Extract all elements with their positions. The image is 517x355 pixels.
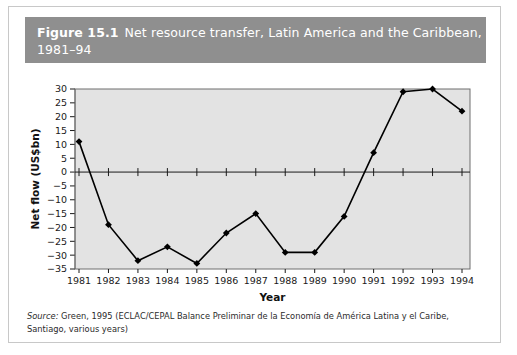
- line-chart: 302520151050−5−10−15−20−25−30−35 1981198…: [25, 73, 486, 301]
- y-tick-label: −35: [47, 263, 67, 274]
- figure-title-text: Net resource transfer, Latin America and…: [125, 25, 482, 40]
- x-tick-label: 1986: [214, 275, 238, 286]
- x-tick-label: 1984: [155, 275, 179, 286]
- x-tick-label: 1990: [332, 275, 356, 286]
- source-note: Source: Green, 1995 (ECLAC/CEPAL Balance…: [27, 310, 487, 335]
- x-tick-label: 1993: [420, 275, 444, 286]
- source-label: Source:: [27, 311, 58, 321]
- figure-container: Figure 15.1Net resource transfer, Latin …: [8, 6, 501, 343]
- y-tick-label: −15: [47, 208, 67, 219]
- y-tick-label: −10: [47, 194, 67, 205]
- plot-background: [75, 89, 470, 269]
- y-tick-label: 5: [61, 153, 67, 164]
- y-tick-label: 15: [55, 125, 67, 136]
- figure-title-line-1: Figure 15.1Net resource transfer, Latin …: [37, 24, 474, 41]
- y-tick-label: −20: [47, 222, 67, 233]
- y-tick-label: 25: [55, 97, 67, 108]
- y-tick-label: 30: [55, 83, 67, 94]
- y-tick-label: −5: [53, 180, 67, 191]
- x-tick-label: 1985: [185, 275, 209, 286]
- figure-title-bar: Figure 15.1Net resource transfer, Latin …: [25, 17, 486, 63]
- y-tick-label: −30: [47, 250, 67, 261]
- y-axis-ticks: [70, 89, 75, 269]
- x-tick-label: 1989: [303, 275, 327, 286]
- x-tick-label: 1991: [362, 275, 386, 286]
- x-tick-label: 1994: [450, 275, 474, 286]
- source-text: Green, 1995 (ECLAC/CEPAL Balance Prelimi…: [27, 311, 449, 334]
- chart-plot-area: 302520151050−5−10−15−20−25−30−35 1981198…: [25, 73, 486, 301]
- y-axis-labels: 302520151050−5−10−15−20−25−30−35: [47, 83, 67, 274]
- x-tick-label: 1992: [391, 275, 415, 286]
- x-tick-label: 1982: [96, 275, 120, 286]
- x-axis-title: Year: [258, 291, 286, 301]
- y-tick-label: 10: [55, 139, 67, 150]
- figure-number: Figure 15.1: [37, 25, 119, 40]
- y-tick-label: −25: [47, 236, 67, 247]
- figure-title-line-2: 1981–94: [37, 41, 474, 58]
- x-tick-label: 1987: [244, 275, 268, 286]
- x-axis-labels: 1981198219831984198519861987198819891990…: [67, 275, 474, 286]
- x-tick-label: 1981: [67, 275, 91, 286]
- y-tick-label: 0: [61, 166, 67, 177]
- x-tick-label: 1988: [273, 275, 297, 286]
- x-tick-label: 1983: [126, 275, 150, 286]
- y-axis-title: Net flow (US$bn): [29, 129, 41, 230]
- y-tick-label: 20: [55, 111, 67, 122]
